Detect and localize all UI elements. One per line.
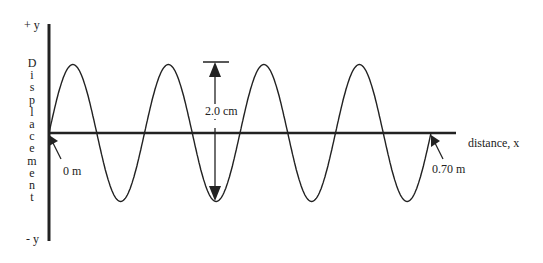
start-pointer-line bbox=[53, 143, 61, 159]
y-axis-title-letter: m bbox=[25, 155, 39, 167]
y-axis-title-letter: p bbox=[25, 94, 39, 106]
end-pointer-line bbox=[435, 143, 443, 159]
x-axis-title: distance, x bbox=[468, 136, 519, 151]
y-axis-title: Displacement bbox=[25, 57, 39, 203]
y-axis-title-letter: s bbox=[25, 81, 39, 93]
end-distance-label: 0.70 m bbox=[432, 162, 465, 177]
y-axis-title-letter: t bbox=[25, 191, 39, 203]
amplitude-arrow-up-icon bbox=[209, 62, 221, 77]
y-axis-title-letter: e bbox=[25, 142, 39, 154]
amplitude-label: 2.0 cm bbox=[205, 104, 238, 119]
y-axis-positive-label: + y bbox=[24, 18, 40, 33]
amplitude-arrow-down-icon bbox=[209, 186, 221, 201]
wave-diagram bbox=[0, 0, 543, 263]
y-axis-negative-label: - y bbox=[26, 232, 39, 247]
start-distance-label: 0 m bbox=[63, 164, 81, 179]
